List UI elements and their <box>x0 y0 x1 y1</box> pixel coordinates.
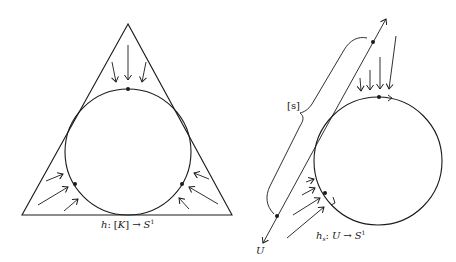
top-point-dot <box>126 87 130 91</box>
left-point-dot <box>73 182 77 186</box>
top-circle-point-dot <box>377 95 381 99</box>
right-point-dot <box>180 182 184 186</box>
brace-label: [s] <box>287 100 300 111</box>
triangle-K <box>22 24 232 215</box>
circle-S1-left <box>65 89 191 215</box>
right-caption: hs:U→S1 <box>316 229 365 242</box>
lower-circle-point-dot <box>323 191 327 195</box>
right-diagram: [s] U hs:U→S1 <box>256 19 442 256</box>
upper-line-point-dot <box>371 40 375 44</box>
lower-line-point-dot <box>275 214 279 218</box>
right-top-arrows-icon <box>360 36 396 91</box>
left-diagram: h:[K]→S1 <box>22 24 232 230</box>
top-arrows-icon <box>112 45 146 82</box>
line-U-label: U <box>256 245 265 256</box>
circle-lower-direction-icon <box>331 197 335 205</box>
circle-S1-right <box>314 97 442 225</box>
left-caption: h:[K]→S1 <box>101 218 154 230</box>
brace-s-icon <box>267 38 367 215</box>
figure-canvas: h:[K]→S1 [s] U <box>0 0 456 262</box>
left-arrows-icon <box>38 174 78 211</box>
line-U-upper <box>324 19 386 131</box>
